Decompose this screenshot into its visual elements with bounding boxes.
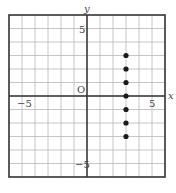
y-tick-label-neg5: −5 [75,159,90,170]
y-axis-label: y [83,3,90,14]
data-point-2 [123,80,128,85]
data-point-0 [123,53,128,58]
data-point-4 [123,107,128,112]
x-tick-label-5: 5 [149,98,155,109]
data-point-3 [123,93,128,98]
coordinate-plane: x y O −5 5 5 −5 [0,0,176,193]
data-point-5 [123,120,128,125]
data-point-1 [123,66,128,71]
x-tick-label-neg5: −5 [17,98,32,109]
x-axis-label: x [168,90,174,101]
y-tick-label-5: 5 [79,24,85,35]
data-point-6 [123,134,128,139]
origin-label: O [77,84,85,95]
